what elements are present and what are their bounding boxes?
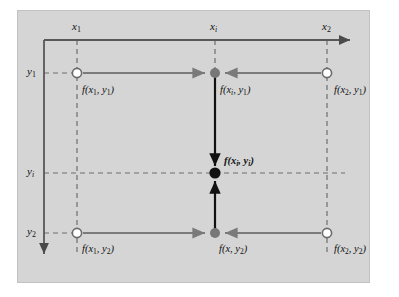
grid-lines bbox=[44, 40, 345, 252]
axis-label-y2: y2 bbox=[27, 226, 36, 239]
marker-f-x-y2 bbox=[210, 228, 220, 238]
point-label-f-x2-y1: f(x2, y1) bbox=[334, 85, 366, 97]
horizontal-flow-arrows bbox=[83, 73, 321, 233]
marker-f-x1-y2 bbox=[72, 228, 81, 237]
marker-f-x2-y2 bbox=[322, 228, 331, 237]
marker-f-x1-y1 bbox=[72, 68, 81, 77]
marker-f-x2-y1 bbox=[322, 68, 331, 77]
axis-label-y1: y1 bbox=[27, 66, 36, 79]
marker-f-xi-yi bbox=[209, 167, 220, 178]
axis-label-yi: yi bbox=[27, 166, 34, 179]
point-label-f-xi-yi: f(xi, yi) bbox=[224, 156, 254, 168]
point-label-f-x1-y1: f(x1, y1) bbox=[82, 85, 114, 97]
axis-label-x1: x1 bbox=[72, 21, 81, 34]
point-label-f-x2-y2: f(x2, y2) bbox=[334, 244, 366, 256]
marker-f-xi-y1 bbox=[210, 68, 220, 78]
figure-root: x1 xi x2 y1 yi y2 f(x1, y1) f(xi, y1) f(… bbox=[0, 0, 399, 297]
point-label-f-x1-y2: f(x1, y2) bbox=[82, 244, 114, 256]
point-label-f-x-y2: f(x, y2) bbox=[219, 244, 247, 256]
axis-label-x2: x2 bbox=[322, 21, 331, 34]
axis-label-xi: xi bbox=[210, 21, 217, 34]
point-label-f-xi-y1: f(xi, y1) bbox=[220, 85, 250, 97]
